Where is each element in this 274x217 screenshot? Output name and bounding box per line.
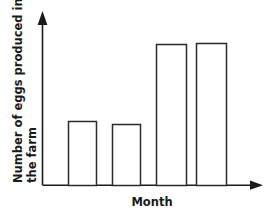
y-axis-title-line-1: Number of eggs produced in	[11, 0, 25, 183]
bar-4	[197, 44, 227, 186]
bar-3	[157, 45, 187, 186]
bar-2	[113, 125, 141, 186]
y-axis-title: Number of eggs produced in the farm	[11, 0, 39, 183]
y-axis-title-line-2: the farm	[25, 127, 39, 183]
y-axis	[38, 11, 48, 185]
y-axis-arrow-icon	[38, 11, 48, 25]
x-axis-title: Month	[131, 195, 172, 209]
bar-series	[69, 44, 227, 186]
bar-chart-figure: Number of eggs produced in the farm Mont…	[0, 0, 274, 217]
bar-1	[69, 122, 97, 186]
x-axis-arrow-icon	[250, 181, 263, 190]
chart-canvas: Number of eggs produced in the farm Mont…	[0, 0, 274, 217]
